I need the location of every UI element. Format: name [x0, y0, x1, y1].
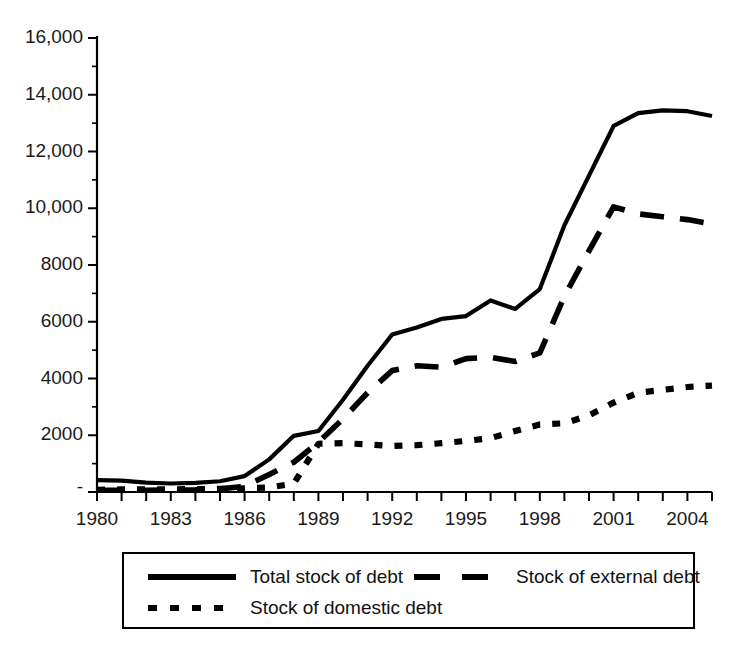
- legend-label-total: Total stock of debt: [250, 566, 403, 588]
- legend-item-external[interactable]: Stock of external debt: [412, 566, 700, 588]
- x-axis-tick-label: 2004: [657, 508, 717, 530]
- legend-item-total[interactable]: Total stock of debt: [146, 566, 403, 588]
- y-axis-tick-label: 12,000: [25, 140, 83, 162]
- y-axis-tick-label: -: [77, 476, 83, 498]
- y-axis-tick-label: 16,000: [25, 26, 83, 48]
- y-axis-tick-label: 10,000: [25, 196, 83, 218]
- legend-label-external: Stock of external debt: [516, 566, 700, 588]
- chart-axes: [97, 36, 712, 492]
- chart-series: [97, 110, 712, 490]
- series-line-solid: [97, 110, 712, 483]
- legend-item-domestic[interactable]: Stock of domestic debt: [146, 597, 442, 619]
- series-line-dotted: [97, 386, 712, 490]
- x-axis-tick-label: 1980: [67, 508, 127, 530]
- x-axis-tick-label: 2001: [584, 508, 644, 530]
- x-axis-tick-label: 1986: [215, 508, 275, 530]
- legend-label-domestic: Stock of domestic debt: [250, 597, 442, 619]
- line-chart: -200040006000800010,00012,00014,00016,00…: [0, 0, 753, 649]
- legend-swatch-dotted: [146, 602, 238, 614]
- y-axis-tick-label: 2000: [41, 423, 83, 445]
- y-axis-tick-label: 14,000: [25, 83, 83, 105]
- legend-swatch-solid: [146, 571, 238, 583]
- y-axis-tick-label: 6000: [41, 310, 83, 332]
- x-axis-tick-label: 1989: [288, 508, 348, 530]
- x-axis-tick-label: 1998: [510, 508, 570, 530]
- y-axis-tick-label: 4000: [41, 367, 83, 389]
- legend-swatch-dashed: [412, 571, 504, 583]
- x-axis-tick-label: 1983: [141, 508, 201, 530]
- x-axis-tick-label: 1992: [362, 508, 422, 530]
- chart-legend: Total stock of debt Stock of external de…: [122, 552, 695, 629]
- y-axis-tick-label: 8000: [41, 253, 83, 275]
- x-axis-tick-label: 1995: [436, 508, 496, 530]
- x-axis-ticks: [97, 492, 712, 501]
- y-axis-ticks: [88, 38, 97, 492]
- series-line-dashed: [97, 207, 712, 490]
